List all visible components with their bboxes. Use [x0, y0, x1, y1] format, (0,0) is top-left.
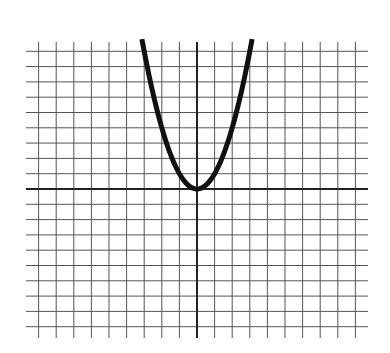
parabola-chart — [0, 0, 390, 353]
